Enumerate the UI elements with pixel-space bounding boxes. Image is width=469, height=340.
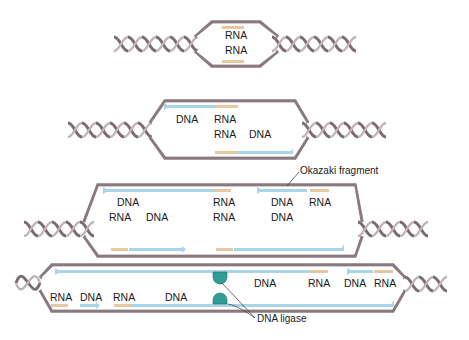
ligase-top xyxy=(213,272,227,284)
annotation-okazaki-fragment: Okazaki fragment xyxy=(300,166,378,176)
label-dna: DNA xyxy=(271,197,293,208)
label-rna: RNA xyxy=(225,30,247,41)
rna-primer xyxy=(222,60,244,63)
label-dna: DNA xyxy=(80,292,102,303)
ligase-bottom xyxy=(213,293,227,304)
label-rna: RNA xyxy=(309,197,331,208)
label-rna: RNA xyxy=(113,292,135,303)
label-rna: RNA xyxy=(213,197,235,208)
label-rna: RNA xyxy=(308,278,330,289)
label-dna: DNA xyxy=(271,212,293,223)
label-dna: DNA xyxy=(176,114,198,125)
label-rna: RNA xyxy=(214,114,236,125)
label-dna: DNA xyxy=(249,129,271,140)
label-rna: RNA xyxy=(50,292,72,303)
label-dna: DNA xyxy=(165,292,187,303)
label-rna: RNA xyxy=(214,129,236,140)
label-dna: DNA xyxy=(117,197,139,208)
label-rna: RNA xyxy=(109,212,131,223)
label-dna: DNA xyxy=(146,212,168,223)
label-rna: RNA xyxy=(374,278,396,289)
label-dna: DNA xyxy=(344,278,366,289)
label-rna: RNA xyxy=(213,212,235,223)
label-dna: DNA xyxy=(254,278,276,289)
label-rna: RNA xyxy=(225,45,247,56)
annotation-dna-ligase: DNA ligase xyxy=(257,314,306,324)
